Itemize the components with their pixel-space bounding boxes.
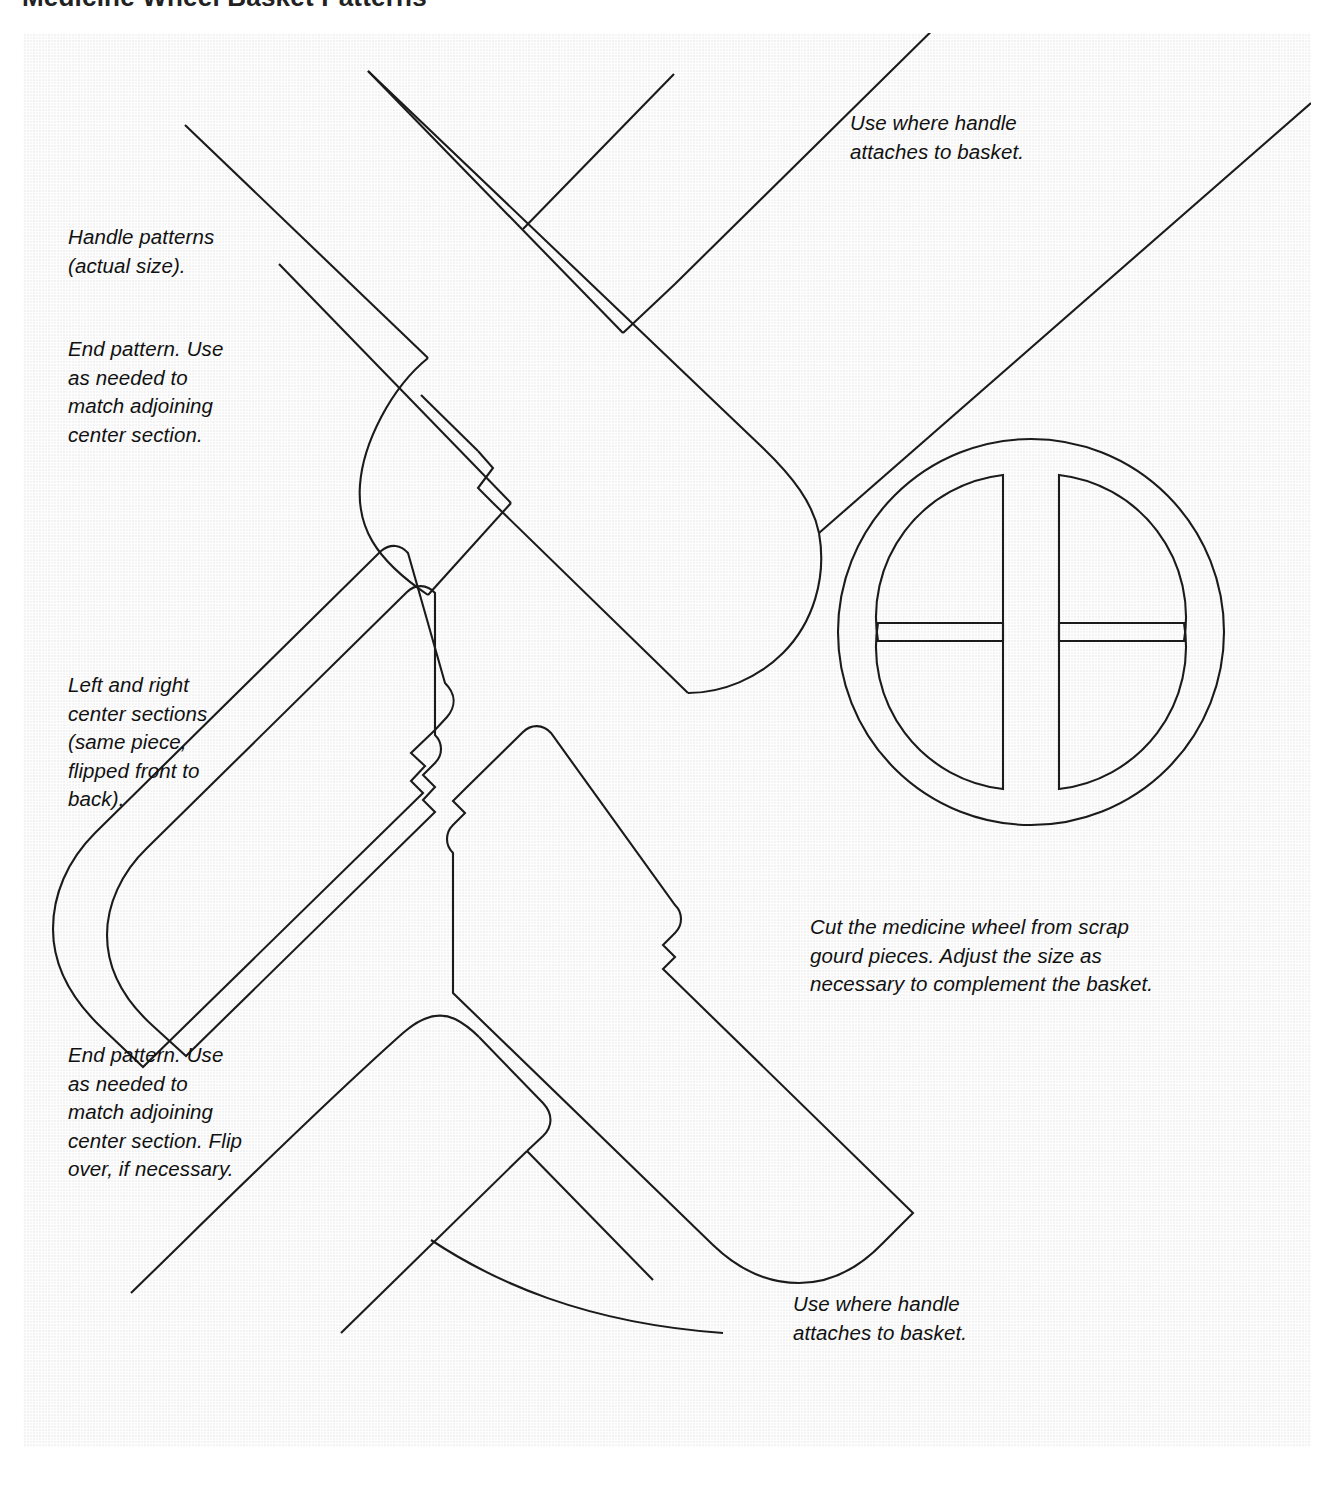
page-canvas: Medicine Wheel Basket Patterns xyxy=(0,0,1343,1493)
piece-medicine-wheel xyxy=(838,439,1224,825)
caption-handle-attach-bottom: Use where handle attaches to basket. xyxy=(793,1290,1093,1347)
caption-center-sections: Left and right center sections (same pie… xyxy=(68,671,298,814)
caption-medicine-wheel-note: Cut the medicine wheel from scrap gourd … xyxy=(810,913,1280,999)
medicine-wheel-quadrant-lower-left xyxy=(876,623,1003,789)
caption-end-pattern-bottom: End pattern. Use as needed to match adjo… xyxy=(68,1041,323,1184)
piece-top-handle-attach xyxy=(368,33,1311,333)
piece-center-section-right xyxy=(447,726,913,1283)
caption-handle-patterns: Handle patterns (actual size). xyxy=(68,223,298,280)
caption-end-pattern-top: End pattern. Use as needed to match adjo… xyxy=(68,335,298,449)
caption-handle-attach-top: Use where handle attaches to basket. xyxy=(850,109,1150,166)
medicine-wheel-outer-circle xyxy=(838,439,1224,825)
pattern-sheet-panel: Handle patterns (actual size). End patte… xyxy=(23,33,1311,1447)
page-title: Medicine Wheel Basket Patterns xyxy=(22,0,427,13)
medicine-wheel-quadrant-upper-right xyxy=(1059,475,1186,641)
piece-top-right-diagonal xyxy=(819,103,1311,533)
medicine-wheel-quadrant-upper-left xyxy=(876,475,1003,641)
medicine-wheel-quadrant-lower-right xyxy=(1059,623,1186,789)
piece-bottom-handle-attach xyxy=(431,1240,723,1333)
